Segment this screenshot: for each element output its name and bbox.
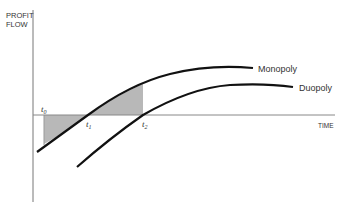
x-axis-label: TIME [318, 122, 334, 129]
monopoly-curve [37, 67, 253, 152]
duopoly-curve [77, 84, 293, 167]
profit-flow-diagram: PROFIT FLOW TIME Monopoly Duopoly t0 t1 … [0, 0, 348, 202]
duopoly-label: Duopoly [299, 83, 333, 93]
t1-label: t1 [86, 119, 92, 130]
y-axis-label-line1: PROFIT [6, 11, 34, 20]
monopoly-label: Monopoly [258, 64, 298, 74]
y-axis-label-line2: FLOW [6, 20, 29, 29]
t2-label: t2 [142, 119, 148, 130]
t0-label: t0 [41, 104, 47, 115]
